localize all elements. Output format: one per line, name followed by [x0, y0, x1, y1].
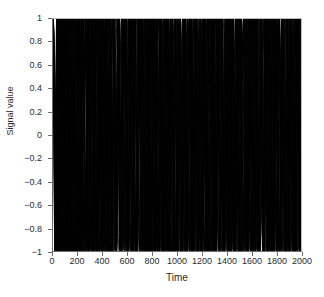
x-axis-label: Time: [52, 272, 302, 283]
y-tick-label: 0.8: [29, 37, 42, 46]
y-tick-label: 0.2: [29, 107, 42, 116]
y-tick-label: −0.2: [24, 154, 42, 163]
y-tick-label: 0: [37, 131, 42, 140]
x-tick-label: 1400: [217, 256, 237, 266]
y-tick-label: −0.4: [24, 177, 42, 186]
x-axis-tick-labels: 0200400600800100012001400160018002000: [0, 256, 324, 270]
x-tick-label: 400: [94, 256, 109, 266]
x-tick-label: 2000: [292, 256, 312, 266]
plot-area: [52, 18, 302, 252]
x-tick-label: 1600: [242, 256, 262, 266]
y-axis-tick-labels: 10.80.60.40.20−0.2−0.4−0.6−0.8−1: [0, 18, 48, 252]
signal-plot-figure: Signal value 10.80.60.40.20−0.2−0.4−0.6−…: [0, 0, 324, 297]
y-tick-label: 1: [37, 14, 42, 23]
y-tick-label: 0.4: [29, 84, 42, 93]
y-tick-label: −0.8: [24, 224, 42, 233]
signal-traces-canvas: [53, 19, 301, 251]
x-tick-label: 1200: [192, 256, 212, 266]
x-tick-label: 1800: [267, 256, 287, 266]
x-tick-label: 1000: [167, 256, 187, 266]
x-tick-label: 600: [119, 256, 134, 266]
x-tick-label: 200: [69, 256, 84, 266]
y-tick-label: 0.6: [29, 60, 42, 69]
y-tick-label: −0.6: [24, 201, 42, 210]
x-tick-label: 0: [49, 256, 54, 266]
x-tick-label: 800: [144, 256, 159, 266]
